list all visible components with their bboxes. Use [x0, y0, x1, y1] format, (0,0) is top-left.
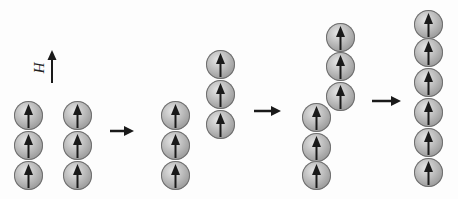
magnetic-particle-chain-a [302, 161, 331, 190]
spin-up-arrow-icon [302, 161, 331, 190]
spin-up-arrow-icon [63, 131, 92, 160]
magnetic-particle-merged-chain [414, 68, 443, 97]
magnetic-particle-chain-b [326, 23, 355, 52]
spin-up-arrow-icon [206, 80, 235, 109]
spin-up-arrow-icon [14, 131, 43, 160]
spin-up-arrow-icon [326, 52, 355, 81]
magnetic-particle-merged-chain [414, 98, 443, 127]
spin-up-arrow-icon [326, 23, 355, 52]
magnetic-particle-chain-a [14, 161, 43, 190]
spin-up-arrow-icon [206, 50, 235, 79]
spin-up-arrow-icon [14, 101, 43, 130]
magnetic-particle-chain-a [14, 131, 43, 160]
spin-up-arrow-icon [414, 10, 443, 39]
spin-up-arrow-icon [414, 38, 443, 67]
magnetic-particle-chain-a [161, 131, 190, 160]
spin-up-arrow-icon [206, 110, 235, 139]
magnetic-particle-chain-a [161, 101, 190, 130]
spin-up-arrow-icon [63, 161, 92, 190]
spin-up-arrow-icon [14, 161, 43, 190]
magnetic-particle-chain-b [206, 50, 235, 79]
spin-up-arrow-icon [414, 158, 443, 187]
field-direction-arrow-icon [46, 50, 58, 84]
spin-up-arrow-icon [63, 101, 92, 130]
magnetic-particle-chain-a [302, 133, 331, 162]
spin-up-arrow-icon [161, 101, 190, 130]
magnetic-particle-chain-b [63, 161, 92, 190]
magnetic-particle-chain-b [326, 82, 355, 111]
magnetic-particle-merged-chain [414, 10, 443, 39]
magnetic-particle-merged-chain [414, 128, 443, 157]
magnetic-particle-chain-b [63, 131, 92, 160]
spin-up-arrow-icon [414, 98, 443, 127]
magnetic-particle-chain-a [14, 101, 43, 130]
transition-arrow-1-icon [110, 125, 134, 137]
magnetic-particle-chain-b [206, 80, 235, 109]
spin-up-arrow-icon [414, 128, 443, 157]
spin-up-arrow-icon [326, 82, 355, 111]
spin-up-arrow-icon [161, 161, 190, 190]
magnetic-particle-merged-chain [414, 38, 443, 67]
magnetic-particle-chain-a [161, 161, 190, 190]
transition-arrow-3-icon [372, 95, 401, 107]
field-label-h: H [30, 62, 47, 73]
magnetic-chain-merging-diagram: H [0, 0, 458, 199]
magnetic-particle-chain-b [206, 110, 235, 139]
spin-up-arrow-icon [161, 131, 190, 160]
transition-arrow-2-icon [254, 105, 281, 117]
magnetic-particle-merged-chain [414, 158, 443, 187]
magnetic-particle-chain-b [63, 101, 92, 130]
spin-up-arrow-icon [414, 68, 443, 97]
magnetic-particle-chain-b [326, 52, 355, 81]
spin-up-arrow-icon [302, 133, 331, 162]
